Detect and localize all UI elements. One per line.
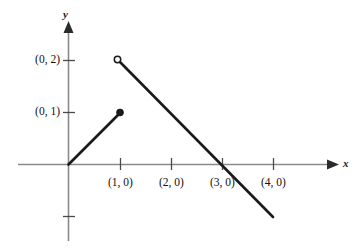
x-tick-label-4: (4, 0) [242,177,305,189]
y-tick-label-1: (0, 1) [0,106,60,118]
y-tick-label-2: (0, 2) [0,54,60,66]
coordinate-plane-svg [0,0,356,249]
open-endpoint-marker [114,56,120,62]
line-segment-descending [119,61,273,217]
x-axis-label: x [343,158,349,169]
closed-endpoint-marker [117,109,124,116]
graph-figure: y x (0, 2) (0, 1) (1, 0) (2, 0) (3, 0) (… [0,0,356,249]
line-segment-ascending [69,113,121,165]
y-axis-label: y [63,9,68,20]
x-axis-arrowhead [327,160,339,170]
y-axis-arrowhead [64,21,74,33]
